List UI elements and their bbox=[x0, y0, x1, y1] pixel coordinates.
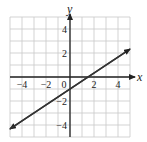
x-tick-label: 0 bbox=[62, 79, 67, 90]
coordinate-plane: −4−202442−2−4 x y bbox=[0, 0, 147, 142]
y-tick-label: 2 bbox=[62, 48, 67, 59]
x-tick-label: −2 bbox=[41, 79, 52, 90]
y-axis-label: y bbox=[66, 2, 73, 16]
x-tick-label: 2 bbox=[92, 79, 97, 90]
axes bbox=[10, 14, 135, 137]
x-tick-label: 4 bbox=[116, 79, 121, 90]
y-tick-label: −4 bbox=[56, 120, 67, 131]
x-tick-label: −4 bbox=[17, 79, 28, 90]
y-tick-label: 4 bbox=[62, 24, 67, 35]
x-axis-label: x bbox=[136, 70, 143, 84]
